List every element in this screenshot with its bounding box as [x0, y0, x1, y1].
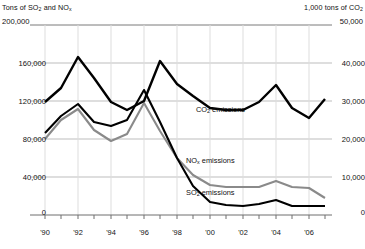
y-axis-left-tick-120000: 120,000: [0, 97, 46, 106]
series-line-so2: [45, 90, 325, 206]
x-axis-tick-1990: '90: [33, 228, 57, 237]
x-axis-ticks: [45, 215, 325, 219]
y-axis-right-tick-0: 0: [319, 208, 365, 217]
x-axis-tick-1992: '92: [66, 228, 90, 237]
x-axis-tick-2002: '02: [231, 228, 255, 237]
x-axis-tick-1994: '94: [99, 228, 123, 237]
chart-figure: Tons of SO2 and NOx 1,000 tons of CO2 20…: [0, 0, 365, 249]
y-axis-right-tick-40000: 40,000: [319, 59, 365, 68]
y-axis-left-tick-40000: 40,000: [0, 173, 46, 182]
x-axis-tick-2004: '04: [264, 228, 288, 237]
vertical-grid-lines: [45, 25, 309, 215]
series-label-co2: CO2 emissions: [196, 105, 245, 114]
series-label-nox: NOx emissions: [186, 156, 235, 165]
y-axis-left-tick-0: 0: [0, 208, 46, 217]
y-axis-right-tick-30000: 30,000: [319, 97, 365, 106]
series-label-so2: SO2 emissions: [186, 188, 235, 197]
y-axis-right-tick-20000: 20,000: [319, 135, 365, 144]
x-axis-tick-1998: '98: [165, 228, 189, 237]
x-axis-tick-2000: '00: [198, 228, 222, 237]
y-axis-left-tick-80000: 80,000: [0, 135, 46, 144]
x-axis-tick-1996: '96: [132, 228, 156, 237]
x-axis-tick-2006: '06: [297, 228, 321, 237]
series-line-co2: [45, 57, 325, 118]
y-axis-left-tick-160000: 160,000: [0, 59, 46, 68]
chart-canvas: [0, 0, 365, 249]
y-axis-right-tick-10000: 10,000: [319, 173, 365, 182]
series-line-nox: [45, 103, 325, 198]
